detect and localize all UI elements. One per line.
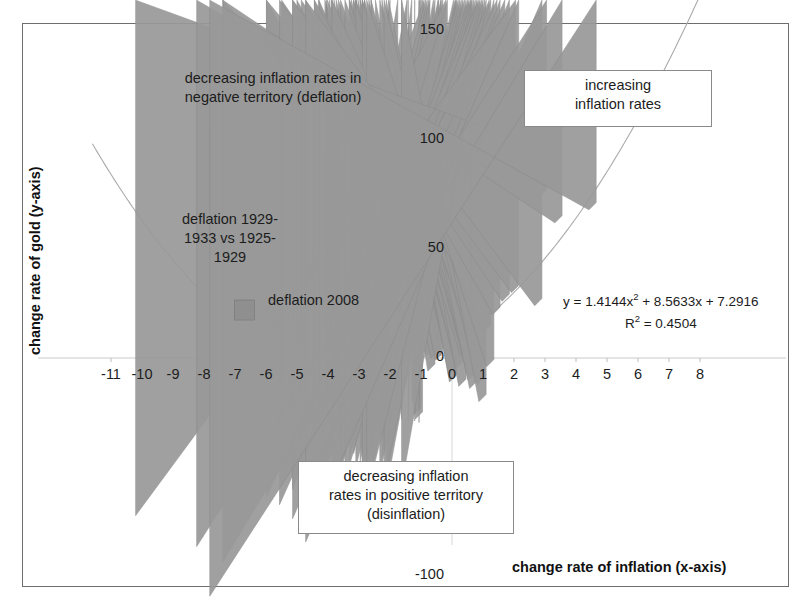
rsquared-post: = 0.4504: [640, 315, 697, 330]
annotation-deflation-quadrant: decreasing inflation rates in negative t…: [128, 69, 418, 107]
annotation-deflation-2008: deflation 2008: [268, 291, 396, 310]
y-tick-label: 50: [394, 239, 444, 255]
equation-line1-pre: y = 1.4144x: [563, 294, 633, 309]
scatter-chart: -11-10-9-8-7-6-5-4-3-2-1012345678 150100…: [0, 0, 811, 614]
x-axis-title: change rate of inflation (x-axis): [512, 559, 726, 575]
annotation-deflation-1929: deflation 1929- 1933 vs 1925- 1929: [150, 210, 310, 267]
y-axis-title: change rate of gold (y-axis): [27, 166, 43, 355]
y-tick-label: 100: [394, 130, 444, 146]
trendline-equation: y = 1.4144x2 + 8.5633x + 7.2916 R2 = 0.4…: [563, 288, 759, 331]
annotation-disinflation-quadrant: decreasing inflation rates in positive t…: [298, 461, 514, 534]
trendline-rsquared-line: R2 = 0.4504: [563, 310, 759, 332]
trendline-equation-line1: y = 1.4144x2 + 8.5633x + 7.2916: [563, 288, 759, 310]
annotation-increasing-quadrant: increasing inflation rates: [524, 70, 712, 127]
data-point-square-deflation-2008: [234, 300, 254, 320]
rsquared-pre: R: [625, 315, 635, 330]
x-tick-label: 8: [680, 366, 720, 382]
y-tick-label: 0: [394, 348, 444, 364]
y-tick-label: -100: [394, 566, 444, 582]
y-tick-label: 150: [394, 21, 444, 37]
equation-line1-post: + 8.5633x + 7.2916: [638, 294, 758, 309]
